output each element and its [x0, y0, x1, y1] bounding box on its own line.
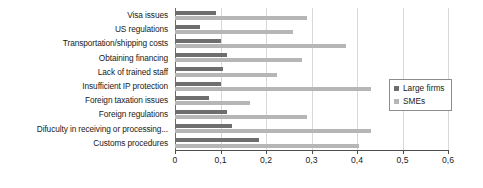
axis-tick	[266, 150, 267, 154]
axis-tick	[221, 150, 222, 154]
axis-tick	[312, 150, 313, 154]
axis-tick-label: 0,4	[351, 156, 363, 165]
category-label: Lack of trained staff	[0, 65, 172, 79]
bar-chart: Visa issues US regulations Transportatio…	[0, 0, 483, 188]
bar-group	[175, 122, 448, 136]
bar	[175, 73, 277, 77]
legend-entry-smes: SMEs	[394, 97, 445, 105]
bar	[175, 16, 307, 20]
bar	[175, 124, 232, 128]
category-label: US regulations	[0, 22, 172, 36]
category-label: Foreign taxation issues	[0, 93, 172, 107]
category-label: Foreign regulations	[0, 107, 172, 121]
bar	[175, 25, 200, 29]
category-axis: Visa issues US regulations Transportatio…	[0, 8, 172, 150]
legend-swatch-large-firms	[394, 86, 399, 91]
legend-label-smes: SMEs	[403, 97, 425, 105]
bar-group	[175, 51, 448, 65]
bar	[175, 115, 307, 119]
bar-group	[175, 22, 448, 36]
legend: Large firms SMEs	[389, 79, 452, 111]
bar-group	[175, 65, 448, 79]
axis-tick-label: 0,2	[260, 156, 272, 165]
axis-tick	[403, 150, 404, 154]
category-label: Difuculty in receiving or processing...	[0, 122, 172, 136]
bar	[175, 129, 371, 133]
bar	[175, 67, 223, 71]
bar-group	[175, 136, 448, 150]
category-label: Obtaining financing	[0, 51, 172, 65]
axis-tick	[448, 150, 449, 154]
category-label: Customs procedures	[0, 136, 172, 150]
axis-tick-label: 0,6	[442, 156, 454, 165]
legend-label-large-firms: Large firms	[403, 84, 445, 92]
bar	[175, 96, 209, 100]
bar	[175, 138, 259, 142]
bar-group	[175, 8, 448, 22]
axis-tick	[175, 150, 176, 154]
bar	[175, 101, 250, 105]
bar	[175, 82, 221, 86]
category-label: Visa issues	[0, 8, 172, 22]
axis-tick-label: 0	[173, 156, 178, 165]
axis-tick-label: 0,3	[306, 156, 318, 165]
axis-tick	[357, 150, 358, 154]
bar	[175, 53, 227, 57]
axis-tick-label: 0,5	[397, 156, 409, 165]
bar-group	[175, 36, 448, 50]
bar	[175, 110, 227, 114]
legend-swatch-smes	[394, 99, 399, 104]
bar	[175, 11, 216, 15]
legend-entry-large-firms: Large firms	[394, 84, 445, 92]
bar	[175, 58, 302, 62]
bar	[175, 44, 346, 48]
category-label: Insufficient IP protection	[0, 79, 172, 93]
bar	[175, 39, 221, 43]
bar	[175, 30, 293, 34]
category-label: Transportation/shipping costs	[0, 36, 172, 50]
bar	[175, 144, 359, 148]
bar	[175, 87, 371, 91]
axis-tick-label: 0,1	[215, 156, 227, 165]
